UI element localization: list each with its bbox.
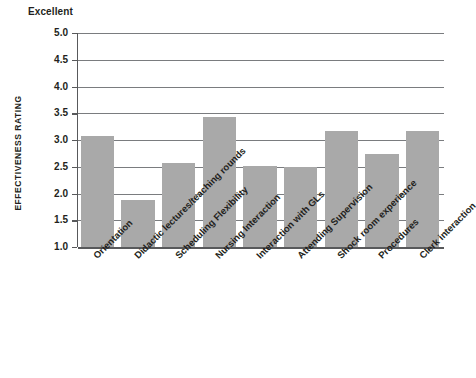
y-tick-mark: [72, 167, 77, 168]
y-tick-mark: [72, 220, 77, 221]
y-tick-mark: [72, 140, 77, 141]
y-tick-label: 1.5: [24, 214, 68, 225]
y-tick-label: 2.0: [24, 188, 68, 199]
y-tick-label: 4.5: [24, 54, 68, 65]
y-tick-label: 2.5: [24, 161, 68, 172]
y-tick-label: 5.0: [24, 27, 68, 38]
y-tick-mark: [72, 247, 77, 248]
y-tick-mark: [72, 33, 77, 34]
y-tick-mark: [72, 87, 77, 88]
y-tick-label: 1.0: [24, 241, 68, 252]
top-scale-anchor-label: Excellent: [28, 6, 73, 17]
y-tick-mark: [72, 60, 77, 61]
bar-chart-figure: Excellent EFFECTIVENESS RATING Orientati…: [0, 0, 476, 378]
y-tick-label: 4.0: [24, 81, 68, 92]
y-axis-title: EFFECTIVENESS RATING: [13, 83, 23, 223]
y-tick-label: 3.5: [24, 107, 68, 118]
bar: [81, 136, 114, 247]
y-tick-label: 3.0: [24, 134, 68, 145]
y-tick-mark: [72, 113, 77, 114]
y-tick-mark: [72, 194, 77, 195]
